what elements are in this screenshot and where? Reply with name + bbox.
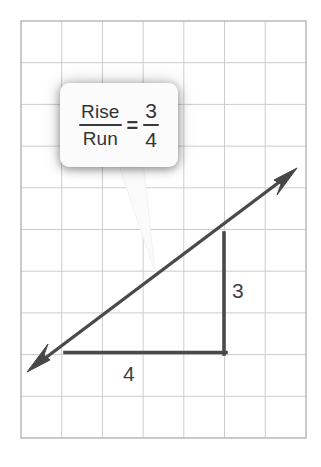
fraction-denominator-run: Run	[79, 128, 121, 149]
fraction-bar-words	[79, 124, 121, 126]
diagram-canvas	[0, 0, 321, 467]
rise-value-label: 3	[232, 279, 244, 303]
fraction-numerator-three: 3	[143, 99, 159, 122]
rise-over-run-fraction: Rise Run	[79, 101, 121, 149]
fraction-numerator-rise: Rise	[79, 101, 121, 122]
rise-over-run-callout: Rise Run = 3 4	[60, 83, 178, 167]
fraction-bar-numbers	[143, 124, 159, 126]
fraction-denominator-four: 4	[143, 128, 159, 151]
slope-diagram-figure: Rise Run = 3 4 3 4	[0, 0, 321, 467]
run-value-label: 4	[123, 362, 135, 386]
equals-sign: =	[126, 114, 140, 137]
formula-expression: Rise Run = 3 4	[79, 99, 159, 151]
three-over-four-fraction: 3 4	[143, 99, 159, 151]
